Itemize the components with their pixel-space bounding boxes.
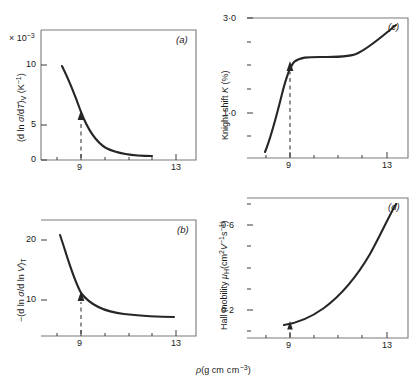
panel-d-xtick-9: 9 — [286, 341, 291, 350]
panel-d: 0·6 0·2 9 13 Hall mobility μH(cm2V−1s−1)… — [210, 190, 419, 381]
x-axis-title: ρ(g cm cm−3) — [196, 364, 251, 375]
panel-b-plot — [0, 190, 210, 381]
panel-c-tag: (c) — [388, 21, 399, 32]
panel-b: 20 10 9 13 −(d ln σ/d ln V)T (b) — [0, 190, 210, 381]
panel-a-xtick-13: 13 — [171, 163, 181, 172]
panel-c-xtick-13: 13 — [382, 161, 392, 170]
panel-a-ytick-10: 10 — [26, 60, 36, 69]
panel-b-y-axis-title: −(d ln σ/d ln V)T — [16, 258, 27, 322]
panel-a-scale-note: × 10−3 — [9, 32, 35, 43]
panel-a-xtick-9: 9 — [77, 163, 82, 172]
panel-a: × 10−3 10 5 0 9 13 (d ln σ/dT)V (K−1) (a… — [0, 0, 210, 190]
panel-b-xtick-13: 13 — [171, 339, 181, 348]
panel-b-xtick-9: 9 — [77, 339, 82, 348]
panel-d-plot — [210, 190, 419, 381]
panel-c-ytick-3: 3·0 — [223, 14, 236, 23]
panel-c: 3·0 1·0 9 13 Knight shift K (%) (c) — [210, 0, 419, 190]
panel-a-ytick-0: 0 — [31, 155, 36, 164]
panel-a-y-axis-title: (d ln σ/dT)V (K−1) — [15, 73, 27, 142]
panel-d-tag: (d) — [388, 201, 400, 212]
panel-b-ytick-20: 20 — [26, 235, 36, 244]
panel-c-y-axis-title: Knight shift K (%) — [220, 70, 230, 140]
panel-b-tag: (b) — [177, 224, 189, 235]
figure-root: × 10−3 10 5 0 9 13 (d ln σ/dT)V (K−1) (a… — [0, 0, 419, 381]
panel-c-xtick-9: 9 — [286, 161, 291, 170]
panel-b-ytick-10: 10 — [26, 295, 36, 304]
panel-a-ytick-5: 5 — [31, 120, 36, 129]
panel-d-xtick-13: 13 — [382, 341, 392, 350]
panel-a-tag: (a) — [176, 34, 188, 45]
panel-d-y-axis-title: Hall mobility μH(cm2V−1s−1) — [218, 221, 230, 330]
